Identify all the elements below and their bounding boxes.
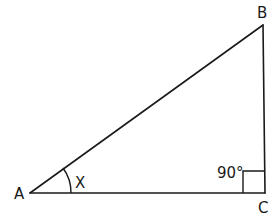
angle-x-label: X (75, 174, 85, 192)
angle-x-arc (63, 168, 71, 193)
vertex-a-label: A (14, 185, 25, 203)
vertex-c-label: C (258, 199, 268, 217)
vertex-b-label: B (257, 4, 267, 22)
right-angle-marker (243, 171, 265, 193)
triangle-diagram: A B C X 90° (0, 0, 278, 222)
triangle-figure: A B C X 90° (0, 0, 278, 222)
side-bc (263, 25, 265, 193)
right-angle-label: 90° (217, 164, 244, 182)
